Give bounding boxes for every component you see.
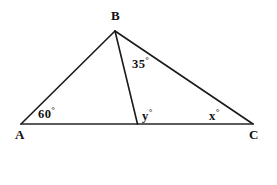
angle-label-a: 60° [38, 106, 55, 121]
degree-symbol-icon: ° [216, 107, 220, 117]
angle-y-value: y [142, 109, 149, 123]
degree-symbol-icon: ° [51, 105, 55, 115]
angle-b-value: 35 [132, 57, 145, 71]
degree-symbol-icon: ° [149, 107, 153, 117]
vertex-label-a: A [15, 128, 25, 141]
geometry-figure: B A C 60° 35° y° x° [0, 0, 277, 185]
angle-label-b: 35° [132, 56, 149, 71]
vertex-label-c: C [249, 128, 259, 141]
figure-background [0, 0, 277, 185]
angle-a-value: 60 [38, 107, 51, 121]
degree-symbol-icon: ° [145, 55, 149, 65]
angle-label-y: y° [142, 108, 152, 123]
angle-x-value: x [209, 109, 216, 123]
angle-label-x: x° [209, 108, 219, 123]
triangle-diagram-canvas [0, 0, 277, 185]
vertex-label-b: B [111, 9, 120, 22]
